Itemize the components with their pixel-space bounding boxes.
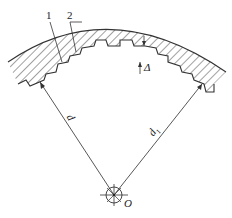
hatched-ring-section <box>0 0 232 110</box>
label-gap-delta: Δ <box>144 62 150 73</box>
label-center-o: O <box>124 198 132 209</box>
diagram-canvas: 1 2 Δ d d1 O <box>0 0 232 218</box>
label-part-1: 1 <box>46 10 52 21</box>
ring-section-drawing <box>0 0 232 218</box>
diameter-lines <box>40 82 202 195</box>
label-part-2: 2 <box>67 10 73 21</box>
